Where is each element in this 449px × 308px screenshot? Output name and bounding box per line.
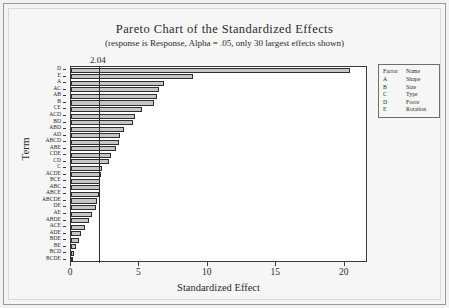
y-axis-labels: DEAACABBCEACDBDABDADABCDABECDECDCACDEBCE…: [0, 66, 66, 262]
bar-BD: [71, 120, 133, 125]
bar-row: [71, 133, 366, 138]
bar-row: [71, 225, 366, 230]
bar-ACDE: [71, 172, 101, 177]
legend-factor-letter: E: [383, 106, 406, 113]
bar-row: [71, 166, 366, 171]
reference-line-label: 2.04: [90, 55, 106, 65]
bar-ABCD: [71, 140, 119, 145]
bar-A: [71, 81, 164, 86]
y-axis-label: ABCD: [45, 138, 61, 144]
y-axis-tick: [63, 259, 66, 260]
legend-row: CType: [383, 91, 435, 98]
bar-ADE: [71, 231, 81, 236]
bar-ABCE: [71, 192, 99, 197]
bar-BE: [71, 244, 76, 249]
y-axis-tick: [63, 102, 66, 103]
bar-row: [71, 140, 366, 145]
bar-row: [71, 205, 366, 210]
x-axis-tick: [70, 262, 71, 266]
y-axis-tick: [63, 82, 66, 83]
y-axis-tick: [63, 193, 66, 194]
y-axis-tick: [63, 135, 66, 136]
bar-ACD: [71, 114, 135, 119]
y-axis-label: BCDE: [46, 256, 61, 262]
bar-BCE: [71, 179, 100, 184]
legend-row: BSize: [383, 84, 435, 91]
x-axis-tick: [207, 262, 208, 266]
bar-row: [71, 244, 366, 249]
y-axis-tick: [63, 122, 66, 123]
x-axis-tick-label: 5: [136, 267, 141, 277]
bar-CD: [71, 159, 109, 164]
y-axis-tick: [63, 180, 66, 181]
chart-title: Pareto Chart of the Standardized Effects: [0, 22, 449, 37]
x-axis-tick: [344, 262, 345, 266]
y-axis-tick: [63, 246, 66, 247]
legend-factor-letter: A: [383, 76, 406, 83]
x-axis-ticks: 05101520: [70, 262, 367, 280]
bar-BCD: [71, 251, 74, 256]
legend-row: DForce: [383, 99, 435, 106]
bar-ABD: [71, 127, 124, 132]
legend-header-row: FactorName: [383, 68, 435, 75]
x-axis-title: Standardized Effect: [70, 282, 367, 293]
bar-row: [71, 159, 366, 164]
bar-row: [71, 81, 366, 86]
y-axis-tick: [63, 226, 66, 227]
bar-row: [71, 120, 366, 125]
bar-ABE: [71, 146, 116, 151]
x-axis-tick: [275, 262, 276, 266]
bar-row: [71, 146, 366, 151]
y-axis-label: AE: [54, 210, 61, 216]
y-axis-label: ACD: [49, 112, 61, 118]
reference-line: [99, 66, 100, 263]
bar-ABCDE: [71, 198, 97, 203]
bar-row: [71, 218, 366, 223]
y-axis-tick: [63, 148, 66, 149]
y-axis-tick: [63, 161, 66, 162]
bar-E: [71, 74, 193, 79]
bar-AC: [71, 87, 159, 92]
x-axis-tick-label: 20: [339, 267, 349, 277]
bar-row: [71, 87, 366, 92]
y-axis-tick: [63, 174, 66, 175]
bar-row: [71, 114, 366, 119]
y-axis-tick: [63, 76, 66, 77]
plot-area: [70, 66, 367, 262]
bar-row: [71, 68, 366, 73]
legend-factor-letter: C: [383, 91, 406, 98]
legend-factor-name: Rotation: [406, 106, 435, 113]
legend-factor-name: Force: [406, 99, 435, 106]
bar-AB: [71, 94, 157, 99]
bar-row: [71, 179, 366, 184]
bar-CDE: [71, 153, 111, 158]
x-axis-tick-label: 15: [271, 267, 281, 277]
bar-AD: [71, 133, 120, 138]
y-axis-tick: [63, 239, 66, 240]
legend-row: ERotation: [383, 106, 435, 113]
bar-BDE: [71, 238, 79, 243]
y-axis-tick: [63, 252, 66, 253]
y-axis-tick: [63, 233, 66, 234]
bar-row: [71, 238, 366, 243]
y-axis-tick: [63, 141, 66, 142]
legend-row: AShape: [383, 76, 435, 83]
y-axis-tick: [63, 200, 66, 201]
y-axis-tick: [63, 220, 66, 221]
bar-ABDE: [71, 218, 89, 223]
bar-row: [71, 212, 366, 217]
bar-row: [71, 153, 366, 158]
bar-CE: [71, 107, 142, 112]
bar-row: [71, 127, 366, 132]
legend-header-factor: Factor: [383, 68, 406, 75]
y-axis-tick: [63, 128, 66, 129]
bar-ABC: [71, 185, 100, 190]
bar-AE: [71, 212, 92, 217]
legend-factor-name: Size: [406, 84, 435, 91]
y-axis-tick: [63, 115, 66, 116]
bar-row: [71, 94, 366, 99]
bar-row: [71, 107, 366, 112]
bar-series: [71, 67, 366, 261]
y-axis-tick: [63, 95, 66, 96]
y-axis-tick: [63, 108, 66, 109]
